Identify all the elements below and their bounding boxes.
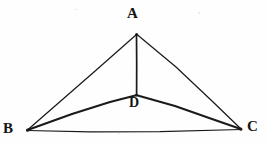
vertex-label-c: C — [247, 119, 258, 134]
scan-speckle — [118, 133, 120, 134]
segment-ab — [28, 35, 137, 131]
vertex-label-b: B — [3, 121, 13, 136]
segment-bc — [28, 130, 242, 132]
geometry-figure: A B C D — [0, 0, 267, 145]
segment-ac — [137, 35, 241, 129]
vertex-point-b — [26, 129, 29, 132]
geometry-canvas — [0, 0, 267, 145]
vertex-point-a — [135, 33, 138, 36]
scan-speckle — [75, 9, 78, 10]
segment-bd — [28, 95, 137, 130]
scan-speckle — [198, 12, 200, 14]
vertex-label-a: A — [127, 6, 138, 21]
vertex-point-c — [239, 128, 242, 131]
segment-dc — [137, 95, 241, 129]
vertex-label-d: D — [129, 96, 139, 110]
